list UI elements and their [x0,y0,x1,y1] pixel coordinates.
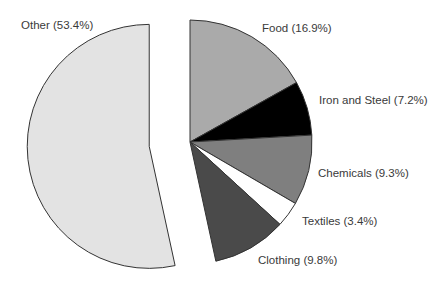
slice-label-textiles: Textiles (3.4%) [302,215,378,227]
slice-label-other: Other (53.4%) [21,19,93,31]
slice-label-iron-and-steel: Iron and Steel (7.2%) [319,94,428,106]
pie-chart: Food (16.9%)Iron and Steel (7.2%)Chemica… [0,0,442,284]
pie-slices [27,20,312,268]
slice-label-clothing: Clothing (9.8%) [258,254,337,266]
pie-slice-other [27,24,175,268]
slice-label-chemicals: Chemicals (9.3%) [318,167,409,179]
slice-label-food: Food (16.9%) [262,22,332,34]
